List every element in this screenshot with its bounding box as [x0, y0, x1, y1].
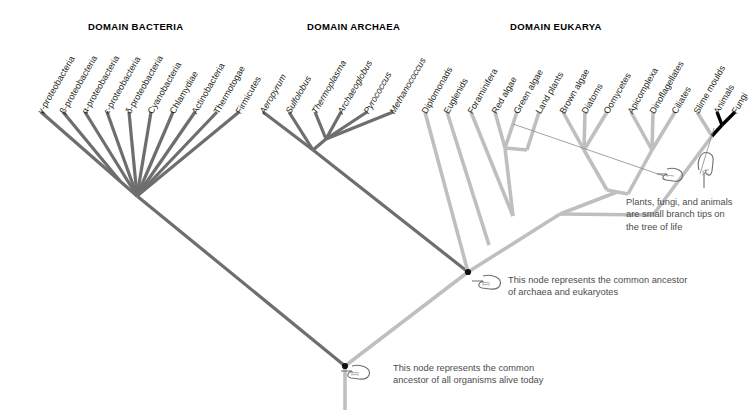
- branch-slime-moulds: [697, 112, 712, 136]
- root-branch: [345, 272, 468, 410]
- branch-euglenids: [447, 112, 489, 245]
- branch-diatoms: [584, 112, 585, 150]
- branch-bacteria-stem: [137, 196, 345, 366]
- branch-oomycetes: [584, 112, 607, 150]
- branch-dinoflagellates: [652, 112, 653, 150]
- branch-archaea-stem: [313, 150, 468, 272]
- branch-sulfolobus: [289, 112, 313, 150]
- branch-brown-algae: [563, 112, 584, 150]
- animals-fungi-clade: [712, 112, 735, 136]
- annotation-archaea-eukarya-node: This node represents the common ancestor…: [508, 274, 693, 299]
- eukarya-clade: [425, 112, 712, 272]
- branch-thermoplasma: [315, 112, 326, 139]
- pointing-hand-icon: [656, 166, 686, 184]
- bacteria-clade: [41, 112, 345, 366]
- branch-red-algae: [495, 112, 505, 148]
- branch-aeropyrum: [263, 112, 313, 150]
- annotation-root-node: This node represents the common ancestor…: [393, 362, 568, 387]
- branch-green-algae: [505, 112, 517, 148]
- branch-archaea-inner: [313, 139, 326, 150]
- pointing-hand-icon: [694, 150, 718, 190]
- branch-stramenopile-stem: [584, 150, 607, 190]
- branch-chromalveolate-stem: [560, 192, 617, 214]
- branch-alveolate-stem: [628, 150, 652, 194]
- annotation-branch-tips: Plants, fungi, and animals are small bra…: [626, 196, 738, 233]
- archaea-clade: [263, 112, 468, 272]
- branch-fungi: [722, 112, 735, 125]
- branch-plant-inner: [505, 148, 527, 150]
- branch-euk-root-stem: [345, 272, 468, 366]
- domain-header-archaea: DOMAIN ARCHAEA: [307, 21, 400, 32]
- domain-header-eukarya: DOMAIN EUKARYA: [510, 21, 602, 32]
- pointing-hand-icon: [470, 272, 504, 292]
- domain-header-bacteria: DOMAIN BACTERIA: [88, 21, 184, 32]
- branch-diplomonads: [425, 112, 468, 272]
- branch-apicomplexa: [631, 112, 652, 150]
- pointing-hand-icon: [339, 362, 373, 382]
- branch-ciliates: [652, 112, 675, 150]
